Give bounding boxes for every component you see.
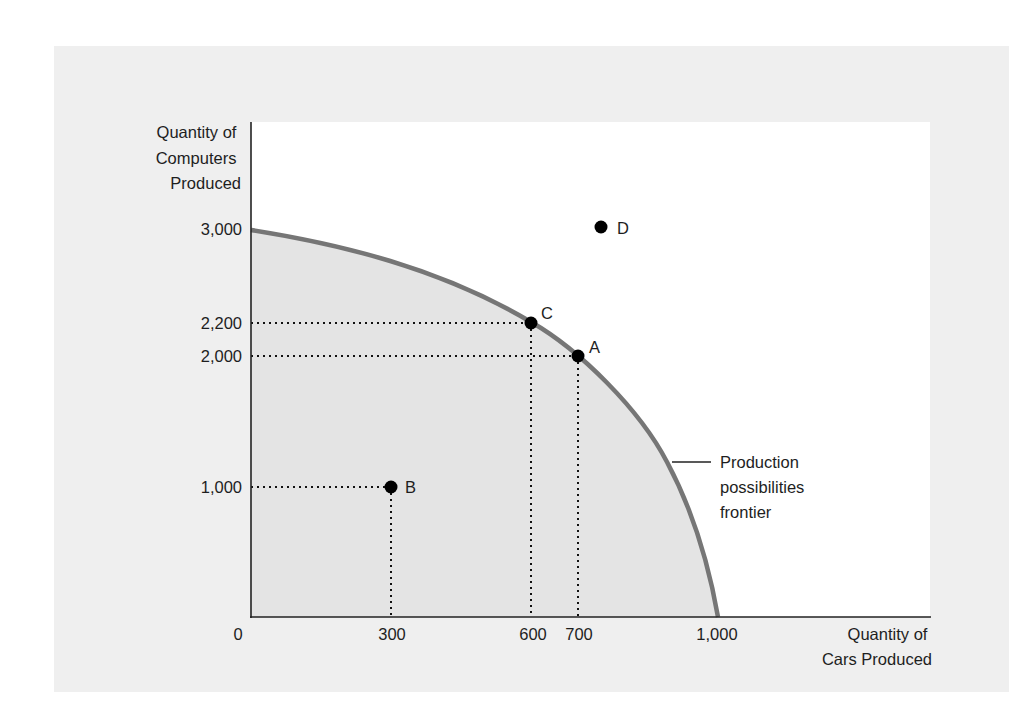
y-axis-title-line-2: Computers — [156, 149, 237, 167]
point-a-label: A — [589, 338, 600, 356]
y-axis-title-line-1: Quantity of — [157, 123, 237, 141]
x-axis-title-line-2: Cars Produced — [822, 650, 932, 668]
x-tick-700: 700 — [565, 625, 593, 643]
point-b-label: B — [405, 478, 416, 496]
y-tick-2200: 2,200 — [201, 314, 242, 332]
y-tick-3000: 3,000 — [201, 220, 242, 238]
point-c-marker — [525, 317, 538, 330]
point-c-label: C — [541, 304, 553, 322]
origin-label: 0 — [233, 625, 242, 643]
x-axis-title-line-1: Quantity of — [848, 625, 928, 643]
y-tick-2000: 2,000 — [201, 347, 242, 365]
point-b-marker — [385, 481, 398, 494]
ppf-chart: Quantity of Computers Produced 3,000 2,2… — [0, 0, 1032, 711]
x-tick-600: 600 — [519, 625, 547, 643]
frontier-label-line-3: frontier — [720, 503, 772, 521]
x-tick-1000: 1,000 — [696, 625, 737, 643]
frontier-label-line-1: Production — [720, 453, 799, 471]
point-a-marker — [572, 350, 585, 363]
y-axis-title-line-3: Produced — [170, 174, 241, 192]
point-d-label: D — [617, 219, 629, 237]
y-tick-1000: 1,000 — [201, 478, 242, 496]
x-tick-300: 300 — [378, 625, 406, 643]
frontier-label-line-2: possibilities — [720, 478, 804, 496]
point-d-marker — [595, 221, 608, 234]
